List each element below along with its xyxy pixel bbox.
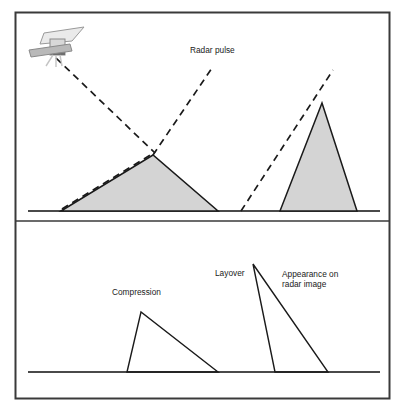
figure-canvas: Radar pulse Compression Layover Appearan… [0, 0, 404, 420]
radar-geometry-figure: Radar pulse Compression Layover Appearan… [0, 0, 404, 420]
appearance-label-line1: Appearance on [282, 269, 339, 279]
radar-pulse-label: Radar pulse [190, 45, 235, 55]
compression-label: Compression [112, 287, 161, 297]
layover-label: Layover [215, 268, 245, 278]
appearance-label-line2: radar image [282, 279, 327, 289]
